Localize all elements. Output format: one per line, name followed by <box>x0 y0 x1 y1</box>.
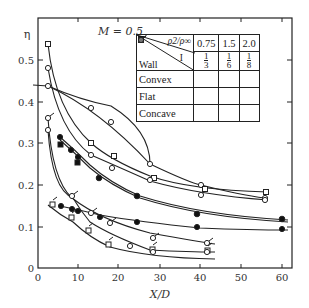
flagged-half-circle-icon <box>239 105 259 122</box>
wall-label: Wall <box>139 59 158 70</box>
legend-row-flat: Flat <box>137 88 194 105</box>
momentum-ratio-label: I <box>180 53 183 63</box>
y-axis-label: η <box>24 28 31 41</box>
svg-text:30: 30 <box>154 272 167 283</box>
filled-square-icon <box>219 88 239 105</box>
half-filled-circle-icon <box>239 71 259 88</box>
density-2.0: 2.0 <box>239 35 259 52</box>
svg-text:20: 20 <box>112 272 125 283</box>
legend-row-convex: Convex <box>137 71 194 88</box>
flagged-square-icon <box>219 105 239 122</box>
y-tick-labels: 0 0.1 0.2 0.3 0.4 0.5 <box>18 55 34 274</box>
momentum-1-3: 13 <box>194 52 219 71</box>
svg-text:60: 60 <box>276 272 289 283</box>
flagged-circle-icon <box>194 105 219 122</box>
momentum-1-6: 16 <box>219 52 239 71</box>
svg-text:0.2: 0.2 <box>18 180 34 191</box>
svg-text:10: 10 <box>72 272 85 283</box>
filled-circle-icon <box>239 88 259 105</box>
open-square-icon <box>219 71 239 88</box>
x-axis-label: X/D <box>149 288 171 301</box>
legend-row-concave: Concave <box>137 105 194 122</box>
svg-text:0.5: 0.5 <box>18 55 34 66</box>
density-ratio-label: ρ2/ρ∞ <box>168 36 191 46</box>
x-tick-labels: 0 10 20 30 40 50 60 <box>35 272 289 283</box>
svg-text:50: 50 <box>235 272 248 283</box>
density-1.5: 1.5 <box>219 35 239 52</box>
momentum-1-8: 18 <box>239 52 259 71</box>
svg-text:0: 0 <box>35 272 41 283</box>
svg-text:0: 0 <box>28 263 34 274</box>
svg-text:0.3: 0.3 <box>18 138 34 149</box>
svg-text:0.1: 0.1 <box>18 222 34 233</box>
legend-table: ρ2/ρ∞ I Wall 0.75 1.5 2.0 13 16 18 Conve… <box>136 34 260 122</box>
svg-text:40: 40 <box>194 272 207 283</box>
svg-text:0.4: 0.4 <box>18 97 34 108</box>
open-circle-icon <box>194 71 219 88</box>
density-0.75: 0.75 <box>194 35 219 52</box>
filled-circle-icon <box>194 88 219 105</box>
